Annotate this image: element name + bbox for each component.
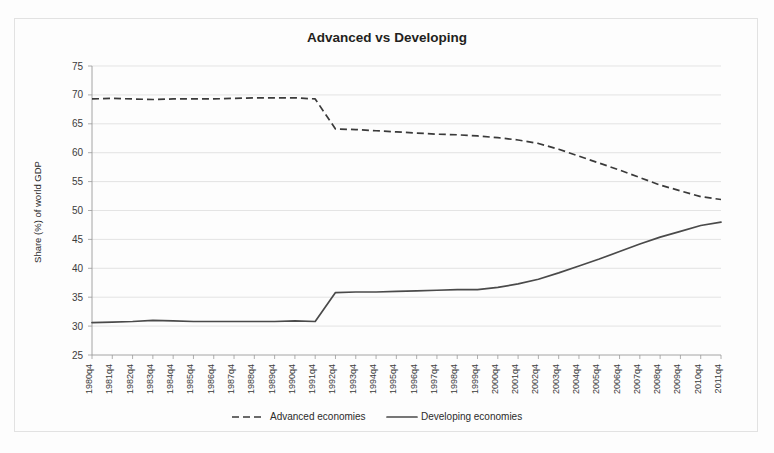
chart-title: Advanced vs Developing	[307, 30, 467, 45]
y-tick-label: 50	[72, 205, 84, 216]
x-tick-label: 2002q4	[530, 364, 540, 394]
x-tick-label: 1987q4	[226, 364, 236, 394]
series-line-developing-economies	[92, 222, 721, 323]
x-tick-label: 2011q4	[713, 364, 723, 393]
x-tick-label: 1991q4	[307, 364, 317, 394]
x-tick-label: 2003q4	[551, 364, 561, 394]
y-tick-label: 45	[72, 234, 84, 245]
chart-figure: Advanced vs Developing Share (%) of worl…	[0, 0, 774, 453]
y-tick-label: 35	[72, 292, 84, 303]
x-tick-label: 2009q4	[672, 364, 682, 394]
x-tick-label: 1993q4	[348, 364, 358, 394]
legend: Advanced economies Developing economies	[232, 411, 522, 422]
x-tick-label: 1981q4	[104, 364, 114, 394]
x-tick-label: 2006q4	[612, 364, 622, 394]
x-tick-label: 1992q4	[327, 364, 337, 394]
x-tick-label: 2004q4	[571, 364, 581, 394]
x-tick-label: 1999q4	[470, 364, 480, 394]
x-tick-label: 1980q4	[84, 364, 94, 394]
y-axis-title: Share (%) of world GDP	[32, 161, 43, 263]
x-tick-label: 1998q4	[449, 364, 459, 394]
y-tick-label: 30	[72, 321, 84, 332]
x-tick-label: 2001q4	[510, 364, 520, 394]
x-tick-label: 1994q4	[368, 364, 378, 394]
y-tick-label: 65	[72, 118, 84, 129]
chart-canvas: Advanced vs Developing Share (%) of worl…	[0, 0, 774, 453]
x-tick-label: 1986q4	[206, 364, 216, 394]
legend-label-advanced: Advanced economies	[270, 411, 366, 422]
gridlines	[88, 66, 721, 355]
x-tick-label: 2008q4	[652, 364, 662, 394]
x-tick-label: 2007q4	[632, 364, 642, 394]
x-tick-label: 1982q4	[125, 364, 135, 394]
series-line-advanced-economies	[92, 98, 721, 200]
y-tick-label: 40	[72, 263, 84, 274]
y-tick-label: 70	[72, 89, 84, 100]
y-tick-label: 75	[72, 61, 84, 72]
x-tick-label: 1984q4	[165, 364, 175, 394]
x-tick-label: 1989q4	[267, 364, 277, 394]
x-tick-label: 1988q4	[246, 364, 256, 394]
x-tick-label: 1990q4	[287, 364, 297, 394]
y-tick-label: 60	[72, 147, 84, 158]
y-tick-label: 25	[72, 350, 84, 361]
x-axis-tick-labels: 1980q41981q41982q41983q41984q41985q41986…	[84, 364, 723, 394]
x-tick-label: 2010q4	[693, 364, 703, 394]
x-tick-label: 1997q4	[429, 364, 439, 394]
x-tick-label: 1995q4	[388, 364, 398, 394]
legend-label-developing: Developing economies	[421, 411, 522, 422]
x-axis-tick-marks	[92, 355, 721, 359]
y-axis-tick-labels: 2530354045505560657075	[72, 61, 84, 361]
x-tick-label: 1983q4	[145, 364, 155, 394]
x-tick-label: 2005q4	[591, 364, 601, 394]
x-tick-label: 1996q4	[409, 364, 419, 394]
x-tick-label: 1985q4	[185, 364, 195, 394]
x-tick-label: 2000q4	[490, 364, 500, 394]
y-tick-label: 55	[72, 176, 84, 187]
